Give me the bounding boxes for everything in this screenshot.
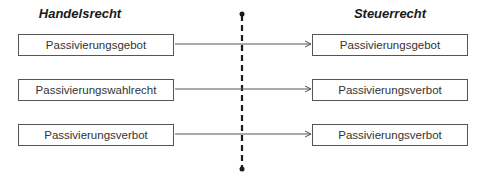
- right-box-1: Passivierungsgebot: [312, 34, 468, 56]
- left-box-3: Passivierungsverbot: [18, 124, 174, 146]
- divider-top-dot: [240, 12, 245, 17]
- right-box-3: Passivierungsverbot: [312, 124, 468, 146]
- left-box-2: Passivierungswahlrecht: [18, 79, 174, 101]
- left-box-1: Passivierungsgebot: [18, 34, 174, 56]
- heading-steuerrecht: Steuerrecht: [310, 6, 470, 21]
- right-box-2: Passivierungsverbot: [312, 79, 468, 101]
- divider-bottom-dot: [240, 167, 245, 172]
- heading-handelsrecht: Handelsrecht: [0, 6, 160, 21]
